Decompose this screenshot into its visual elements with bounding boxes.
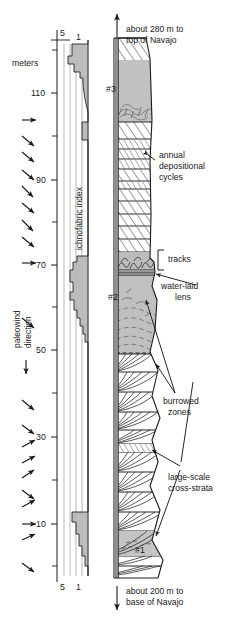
- stratigraphic-column-figure: about 280 m to top of Navajo about 200 m…: [0, 0, 234, 623]
- paleowind-label-line2: direction: [23, 316, 33, 348]
- callout-tracks: tracks: [168, 254, 191, 264]
- annotation-1: #1: [135, 545, 145, 555]
- annual-cycles-beds: [116, 122, 168, 252]
- callout-crossstrata-line1: large-scale: [168, 472, 210, 482]
- callout-annual-line3: cycles: [159, 172, 183, 182]
- annotation-2: #2: [108, 292, 118, 302]
- callout-waterlaid-line2: lens: [175, 292, 191, 302]
- meters-axis: [51, 30, 57, 582]
- lithology-column: [114, 38, 168, 578]
- meters-tick-50: 50: [36, 345, 46, 355]
- meters-tick-30: 30: [36, 432, 46, 442]
- callout-waterlaid-line1: water-laid: [161, 281, 198, 291]
- ichnofabric-index-curve: [68, 40, 88, 576]
- callout-annual-line1: annual: [159, 150, 185, 160]
- ichno-scale-bottom-5: 5: [60, 582, 65, 592]
- ichno-scale-bottom-1: 1: [76, 582, 81, 592]
- meters-tick-70: 70: [36, 260, 46, 270]
- meters-tick-90: 90: [36, 175, 46, 185]
- callout-burrowed-line2: zones: [168, 407, 191, 417]
- ichnofabric-index-label: ichnofabric index: [74, 187, 84, 250]
- paleowind-label-line1: paleowind: [12, 310, 22, 348]
- bottom-caption-line1: about 200 m to: [126, 586, 183, 596]
- callout-annual-line2: depositional: [159, 161, 205, 171]
- meters-tick-10: 10: [36, 519, 46, 529]
- meters-axis-label: meters: [12, 58, 38, 68]
- top-caption-line2: top of Navajo: [126, 35, 177, 45]
- callout-burrowed-line1: burrowed: [163, 396, 199, 406]
- ichno-scale-top-1: 1: [76, 32, 81, 42]
- bottom-caption-line2: base of Navajo: [126, 597, 183, 607]
- callout-crossstrata-line2: cross-strata: [168, 483, 213, 493]
- ichno-scale-top-5: 5: [60, 28, 65, 38]
- annotation-3: #3: [106, 84, 116, 94]
- meters-tick-110: 110: [31, 88, 45, 98]
- top-caption-line1: about 280 m to: [126, 24, 183, 34]
